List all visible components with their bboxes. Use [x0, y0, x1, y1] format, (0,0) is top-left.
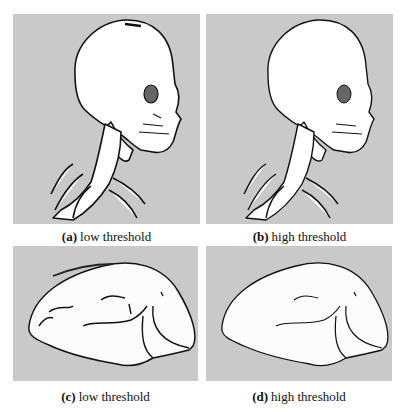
- caption-tag: (c): [61, 389, 75, 404]
- caption-d: (d)high threshold: [206, 389, 392, 405]
- skull-illustration: [13, 14, 200, 224]
- caption-c: (c)low threshold: [13, 389, 198, 405]
- caption-label: low threshold: [79, 389, 150, 404]
- panel-d-organ-high-threshold: [206, 246, 392, 381]
- caption-b: (b)high threshold: [206, 229, 393, 245]
- skull-illustration: [206, 14, 393, 224]
- panel-a-skull-low-threshold: [13, 14, 200, 224]
- caption-label: low threshold: [80, 229, 151, 244]
- caption-label: high threshold: [271, 389, 346, 404]
- caption-tag: (d): [252, 389, 268, 404]
- organ-illustration: [13, 246, 198, 381]
- caption-tag: (b): [253, 229, 269, 244]
- caption-a: (a)low threshold: [13, 229, 200, 245]
- organ-illustration: [206, 246, 392, 381]
- panel-c-organ-low-threshold: [13, 246, 198, 381]
- caption-tag: (a): [62, 229, 77, 244]
- panel-b-skull-high-threshold: [206, 14, 393, 224]
- caption-label: high threshold: [272, 229, 347, 244]
